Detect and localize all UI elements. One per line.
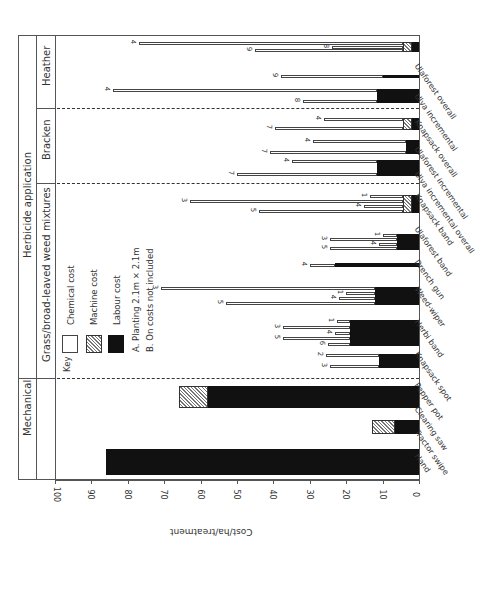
axis-tick-label: 40 <box>268 489 277 499</box>
band-mechanical: Mechanical <box>22 380 33 436</box>
bar-number-label: 4 <box>369 240 377 244</box>
band-sep-grass <box>36 378 55 379</box>
bar-chemical <box>292 160 378 163</box>
bar-chemical <box>270 151 407 154</box>
axis-tick <box>310 480 311 484</box>
legend-note-a: A. Planting 2.1m × 2.1m <box>131 248 141 352</box>
bar-chemical <box>259 210 403 213</box>
bar-number-label: 6 <box>318 341 326 345</box>
bar-number-label: 4 <box>329 295 337 299</box>
legend-chemical-swatch <box>62 335 78 353</box>
bar-chemical <box>281 75 383 78</box>
band-grass: Grass/broad-leaved weed mixtures <box>41 187 52 362</box>
axis-tick <box>128 480 129 484</box>
axis-tick-label: 30 <box>304 489 313 499</box>
axis-tick-label: 0 <box>411 492 420 497</box>
bar-number-label: 4 <box>129 40 137 44</box>
axis-tick-label: 100 <box>52 487 61 502</box>
bar-chemical <box>346 292 375 295</box>
bar-labour <box>412 42 419 52</box>
bar-number-label: 7 <box>260 149 268 153</box>
bar-labour <box>350 320 419 346</box>
bar-chemical <box>330 238 397 241</box>
bar-chemical <box>237 173 377 176</box>
bar-machine <box>179 386 208 408</box>
bar-number-label: 2 <box>316 352 324 356</box>
bar-number-label: 5 <box>216 300 224 304</box>
bar-labour <box>335 263 419 267</box>
bar-chemical <box>324 118 402 121</box>
bar-labour <box>106 449 419 475</box>
band-divider-inner <box>55 35 56 480</box>
axis-tick <box>164 480 165 484</box>
axis-tick-label: 90 <box>86 489 95 499</box>
bar-chemical <box>337 320 350 323</box>
bar-chemical <box>226 302 375 305</box>
bar-chemical <box>310 264 335 267</box>
bar-chemical <box>275 127 402 130</box>
bar-labour <box>383 75 419 78</box>
bar-number-label: 4 <box>355 203 363 207</box>
bar-number-label: 1 <box>360 193 368 197</box>
bar-chemical <box>190 200 403 203</box>
bar-number-label: 3 <box>180 198 188 202</box>
bar-chemical <box>330 365 379 368</box>
bar-chemical <box>335 332 350 335</box>
bar-chemical <box>379 243 397 246</box>
axis-tick <box>383 480 384 484</box>
bar-number-label: 3 <box>320 236 328 240</box>
legend-machine-swatch <box>86 335 102 353</box>
bar-machine <box>372 420 396 434</box>
axis-tick-label: 20 <box>341 489 350 499</box>
legend-note-b: B. On costs not included <box>145 248 155 352</box>
legend-chemical-label: Chemical cost <box>66 265 76 325</box>
axis-tick <box>91 480 92 484</box>
bar-number-label: 4 <box>300 261 308 265</box>
section-divider-bracken <box>57 183 419 184</box>
bar-number-label: 1 <box>336 290 344 294</box>
bar-number-label: 4 <box>103 87 111 91</box>
bar-chemical <box>330 247 397 250</box>
legend-labour-swatch <box>108 335 124 353</box>
bar-machine <box>403 118 412 130</box>
band-heather: Heather <box>41 46 52 86</box>
axis-tick-label: 60 <box>195 489 204 499</box>
bar-number-label: 8 <box>293 98 301 102</box>
bar-machine <box>403 42 412 52</box>
legend-title: Key <box>62 357 72 372</box>
bar-machine <box>403 195 412 213</box>
bar-chemical <box>326 354 379 357</box>
bar-number-label: 5 <box>320 245 328 249</box>
bar-number-label: 1 <box>373 232 381 236</box>
legend-machine-label: Machine cost <box>89 269 99 325</box>
bar-chemical <box>364 205 402 208</box>
bar-number-label: 5 <box>273 335 281 339</box>
axis-tick <box>237 480 238 484</box>
axis-tick <box>273 480 274 484</box>
bar-number-label: 4 <box>315 116 323 120</box>
band-bracken: Bracken <box>41 119 52 160</box>
bar-chemical <box>283 326 350 329</box>
bar-number-label: 8 <box>322 43 330 47</box>
section-divider-heather <box>57 108 419 109</box>
bar-number-label: 7 <box>265 125 273 129</box>
band-herbicide: Herbicide application <box>22 152 33 258</box>
axis-tick-label: 10 <box>377 489 386 499</box>
bar-chemical <box>383 234 398 237</box>
bar-chemical <box>313 140 406 143</box>
band-divider-outer <box>36 35 37 480</box>
band-sep-bracken <box>36 183 55 184</box>
bar-number-label: 4 <box>282 158 290 162</box>
axis-tick <box>55 480 56 484</box>
bar-chemical <box>370 195 403 198</box>
axis-tick <box>419 480 420 484</box>
bar-chemical <box>283 337 350 340</box>
bar-chemical <box>113 89 377 92</box>
bar-number-label: 9 <box>245 47 253 51</box>
bar-number-label: 3 <box>273 324 281 328</box>
axis-tick-label: 50 <box>232 489 241 499</box>
axis-tick-label: 70 <box>159 489 168 499</box>
bar-number-label: 1 <box>327 318 335 322</box>
bar-number-label: 3 <box>320 363 328 367</box>
bar-number-label: 7 <box>227 171 235 175</box>
